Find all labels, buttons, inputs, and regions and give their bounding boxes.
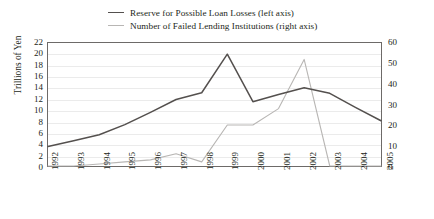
chart-legend: Reserve for Possible Loan Losses (left a… bbox=[108, 6, 368, 32]
x-axis-tick: 1995 bbox=[128, 152, 137, 170]
y-axis-left-tick: 4 bbox=[39, 140, 44, 149]
legend-swatch-reserve bbox=[108, 12, 124, 13]
x-axis-tick: 2000 bbox=[257, 152, 266, 170]
legend-label-reserve: Reserve for Possible Loan Losses (left a… bbox=[130, 7, 294, 19]
y-axis-left-tick: 16 bbox=[34, 72, 43, 81]
plot-area bbox=[47, 42, 382, 167]
x-axis-tick: 2005 bbox=[386, 152, 395, 170]
y-axis-left-tick: 22 bbox=[34, 38, 43, 47]
y-axis-right-tick: 60 bbox=[388, 38, 397, 47]
x-axis-tick: 2001 bbox=[283, 152, 292, 170]
legend-swatch-failed-institutions bbox=[108, 25, 124, 26]
x-axis-tick: 2003 bbox=[334, 152, 343, 170]
x-axis-tick: 1993 bbox=[77, 152, 86, 170]
line-reserve-loan-losses bbox=[48, 54, 381, 146]
legend-item-reserve: Reserve for Possible Loan Losses (left a… bbox=[108, 6, 368, 19]
chart-container: Reserve for Possible Loan Losses (left a… bbox=[0, 0, 434, 219]
x-axis-tick: 2002 bbox=[309, 152, 318, 170]
y-axis-right-tick: 10 bbox=[388, 142, 397, 151]
x-axis-ticks: 1992199319941995199619971998199920002001… bbox=[47, 168, 382, 216]
y-axis-left-ticks: 2220181614121086420 bbox=[18, 42, 43, 167]
y-axis-left-tick: 0 bbox=[39, 163, 44, 172]
y-axis-left-tick: 2 bbox=[39, 151, 44, 160]
x-axis-tick: 1996 bbox=[154, 152, 163, 170]
y-axis-right-tick: 50 bbox=[388, 58, 397, 67]
series-layer bbox=[48, 43, 381, 166]
y-axis-left-tick: 18 bbox=[34, 60, 43, 69]
line-failed-institutions bbox=[48, 59, 381, 166]
y-axis-left-tick: 6 bbox=[39, 128, 44, 137]
x-axis-tick: 1997 bbox=[180, 152, 189, 170]
y-axis-right-tick: 40 bbox=[388, 79, 397, 88]
x-axis-tick: 1992 bbox=[51, 152, 60, 170]
x-axis-tick: 1998 bbox=[206, 152, 215, 170]
y-axis-left-tick: 20 bbox=[34, 49, 43, 58]
y-axis-right-tick: 20 bbox=[388, 121, 397, 130]
legend-label-failed-institutions: Number of Failed Lending Institutions (r… bbox=[130, 20, 317, 32]
y-axis-left-tick: 10 bbox=[34, 106, 43, 115]
y-axis-right-tick: 30 bbox=[388, 100, 397, 109]
y-axis-left-tick: 12 bbox=[34, 94, 43, 103]
x-axis-tick: 2004 bbox=[360, 152, 369, 170]
y-axis-left-tick: 8 bbox=[39, 117, 44, 126]
x-axis-tick: 1999 bbox=[231, 152, 240, 170]
legend-item-failed-institutions: Number of Failed Lending Institutions (r… bbox=[108, 19, 368, 32]
y-axis-right-ticks: 6050403020100 bbox=[388, 42, 414, 167]
y-axis-left-tick: 14 bbox=[34, 83, 43, 92]
x-axis-tick: 1994 bbox=[103, 152, 112, 170]
